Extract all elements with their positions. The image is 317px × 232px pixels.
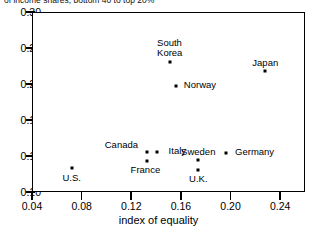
x-axis-tick-label: 0.04 <box>12 201 52 212</box>
x-axis-tick-mark <box>81 192 83 200</box>
scatter-chart-figure: of income shares, bottom 40 to top 20% 0… <box>0 0 317 232</box>
x-axis-tick-label: 0.20 <box>211 201 251 212</box>
x-axis-tick-label: 0.24 <box>260 201 300 212</box>
x-axis-tick-label: 0.12 <box>111 201 151 212</box>
x-axis: 0.040.080.120.160.200.24 <box>0 0 317 232</box>
x-axis-tick-mark <box>130 192 132 200</box>
x-axis-tick-label: 0.08 <box>62 201 102 212</box>
x-axis-tick-label: 0.16 <box>161 201 201 212</box>
x-axis-tick-mark <box>180 192 182 200</box>
x-axis-tick-mark <box>279 192 281 200</box>
x-axis-tick-mark <box>230 192 232 200</box>
x-axis-tick-mark <box>31 192 33 200</box>
x-axis-title: index of equality <box>0 214 317 226</box>
